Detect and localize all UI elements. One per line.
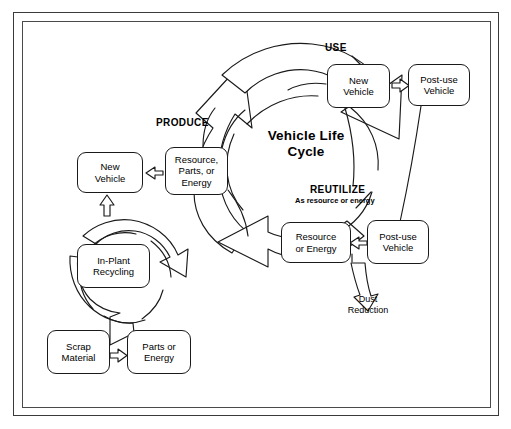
diagram-canvas: Vehicle Life Cycle PRODUCE USE REUTILIZE…: [0, 0, 511, 429]
link-postuse-top-to-bottom: [400, 106, 421, 222]
inplant-outer-arc-right: [142, 290, 163, 319]
arrow-scrap-to-parts: [110, 349, 127, 362]
node-post-use-vehicle-top[interactable]: Post-use Vehicle: [408, 64, 470, 106]
node-new-vehicle-top[interactable]: New Vehicle: [327, 64, 390, 108]
node-post-use-vehicle-bottom[interactable]: Post-use Vehicle: [367, 220, 429, 264]
arrow-inplant-to-newvehicle-up: [100, 195, 114, 216]
link-use-to-newvehicle: [288, 83, 326, 90]
node-resource-or-energy[interactable]: Resource or Energy: [281, 222, 351, 263]
node-scrap-material[interactable]: Scrap Material: [47, 330, 110, 374]
node-parts-or-energy[interactable]: Parts or Energy: [127, 330, 191, 374]
arrow-resource-to-newvehicle-left: [146, 167, 163, 179]
cycle-inner-arc-left: [227, 134, 243, 210]
annotation-dust-reduction: Dust Reduction: [330, 294, 406, 316]
node-new-vehicle-left[interactable]: New Vehicle: [77, 152, 143, 193]
label-use: USE: [325, 42, 347, 53]
label-reutilize-subtitle: As resource or energy: [295, 196, 375, 205]
cycle-inner-arc-top: [247, 96, 318, 124]
center-title: Vehicle Life Cycle: [246, 128, 366, 160]
label-produce: PRODUCE: [156, 117, 209, 128]
node-in-plant-recycling[interactable]: In-Plant Recycling: [77, 244, 150, 288]
node-resource-parts-energy[interactable]: Resource, Parts, or Energy: [165, 147, 228, 195]
label-reutilize: REUTILIZE: [310, 184, 365, 195]
